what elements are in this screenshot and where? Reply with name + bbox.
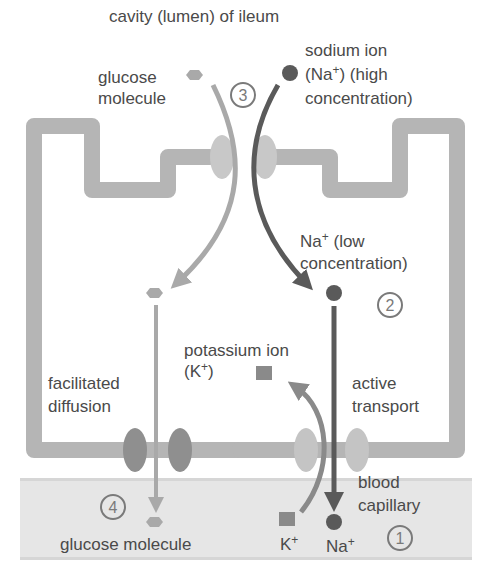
potassium-label-line2: (K+) <box>184 360 214 381</box>
sodium-label-line3: concentration) <box>305 89 413 108</box>
lumen-title: cavity (lumen) of ileum <box>109 7 279 26</box>
sodium-potassium-pump-right <box>345 428 369 472</box>
active-transport-label-line1: active <box>352 374 396 393</box>
na-low-label-line2: concentration) <box>300 254 408 273</box>
blood-capillary-edge-bottom <box>20 557 472 560</box>
potassium-ion-icon-mid <box>256 366 272 380</box>
facilitated-diffusion-label-line1: facilitated <box>48 374 120 393</box>
glucose-label-line2: molecule <box>98 89 166 108</box>
potassium-label-line1: potassium ion <box>184 341 289 360</box>
sodium-potassium-pump-left <box>294 428 318 472</box>
sodium-ion-icon-top <box>282 65 298 81</box>
sodium-ion-icon-bottom <box>326 514 342 530</box>
step-1-number: 1 <box>396 530 405 547</box>
sodium-ion-icon-mid <box>326 285 342 301</box>
blood-capillary-label-line1: blood <box>358 473 400 492</box>
step-3-marker: 3 <box>231 83 255 107</box>
sodium-label-line1: sodium ion <box>305 41 387 60</box>
glucose-molecule-bottom-label: glucose molecule <box>60 535 191 554</box>
active-transport-label-line2: transport <box>352 397 419 416</box>
facilitated-diffusion-label-line2: diffusion <box>48 397 111 416</box>
step-3-number: 3 <box>239 87 248 104</box>
na-low-label-line1: Na+ (low <box>300 230 365 251</box>
blood-capillary-label-line2: capillary <box>358 496 421 515</box>
sodium-label-line2: (Na+) (high <box>305 63 388 84</box>
step-2-number: 2 <box>386 297 395 314</box>
cell-membrane-right <box>240 126 457 450</box>
glucose-molecule-icon-top <box>186 70 203 80</box>
glucose-carrier-protein-right <box>168 428 192 472</box>
potassium-ion-icon-bottom <box>279 512 295 526</box>
glucose-molecule-icon-mid <box>146 288 163 298</box>
glucose-absorption-diagram: 3 2 4 1 cavity (lumen) of ileum glucose … <box>0 0 485 577</box>
glucose-entry-arrow <box>178 85 235 282</box>
step-4-number: 4 <box>109 499 118 516</box>
glucose-carrier-protein-left <box>123 428 147 472</box>
blood-capillary-edge-top <box>20 478 472 481</box>
glucose-label-line1: glucose <box>98 68 157 87</box>
step-2-marker: 2 <box>378 293 402 317</box>
sodium-entry-arrow <box>254 85 306 283</box>
